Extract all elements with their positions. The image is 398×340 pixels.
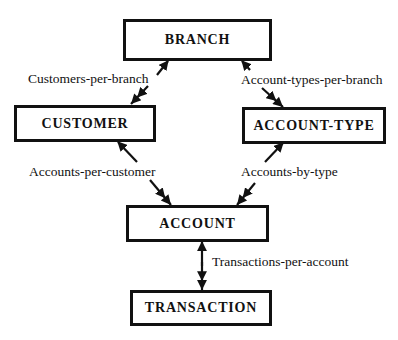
arrow-customers-per-branch-child [131, 86, 148, 104]
arrow-accounts-per-customer-child [150, 180, 171, 205]
arrow-account-types-per-branch-parent [242, 61, 250, 70]
arrow-account-types-per-branch-child [262, 88, 283, 107]
arrow-customers-per-branch-parent [157, 61, 168, 75]
entity-customer: CUSTOMER [14, 105, 156, 142]
label-accounts-by-type: Accounts-by-type [241, 164, 338, 180]
label-customers-per-branch: Customers-per-branch [28, 71, 148, 87]
label-account-types-per-branch: Account-types-per-branch [241, 72, 382, 88]
entity-account-type-label: ACCOUNT-TYPE [253, 118, 374, 134]
entity-transaction: TRANSACTION [130, 290, 272, 326]
entity-transaction-label: TRANSACTION [145, 300, 257, 316]
arrow-accounts-by-type-parent [265, 143, 283, 162]
arrow-accounts-by-type-child [237, 183, 255, 205]
entity-account: ACCOUNT [126, 205, 269, 242]
arrow-accounts-per-customer-parent [118, 142, 137, 162]
label-accounts-per-customer: Accounts-per-customer [29, 164, 155, 180]
entity-account-label: ACCOUNT [159, 216, 235, 232]
label-transactions-per-account: Transactions-per-account [212, 254, 348, 270]
entity-branch: BRANCH [123, 19, 272, 61]
entity-account-type: ACCOUNT-TYPE [242, 107, 386, 144]
entity-branch-label: BRANCH [165, 32, 230, 48]
entity-customer-label: CUSTOMER [41, 116, 128, 132]
